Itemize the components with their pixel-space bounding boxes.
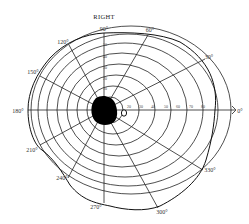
angle-label-240: 240° — [56, 175, 68, 181]
angle-label-30: 30° — [205, 54, 214, 60]
angle-label-0: 0° — [237, 108, 243, 114]
angle-label-150: 150° — [27, 69, 39, 75]
angle-label-330: 330° — [204, 167, 216, 173]
tick-h50: 50 — [164, 104, 168, 109]
tick-h60: 60 — [176, 104, 180, 109]
angle-label-300: 300° — [156, 209, 168, 215]
angle-label-210: 210° — [26, 147, 38, 153]
tick-h20: 20 — [127, 104, 131, 109]
fixation-marker — [121, 110, 126, 116]
tick-h80: 80 — [201, 104, 205, 109]
tick-h70: 70 — [189, 104, 193, 109]
angle-label-120: 120° — [57, 39, 69, 45]
tick-v10: 10 — [103, 86, 107, 91]
blind-spot — [91, 96, 117, 125]
angle-label-90: 90° — [100, 26, 109, 32]
angle-label-60: 60° — [146, 27, 155, 33]
tick-v20: 20 — [103, 76, 107, 81]
tick-v30: 30 — [103, 65, 107, 70]
angle-label-270: 270° — [90, 204, 102, 210]
angle-labels: 90° 60° 30° 0° 120° 150° 180° 210° 240° … — [12, 26, 243, 215]
tick-h30: 30 — [139, 104, 143, 109]
tick-h40: 40 — [151, 104, 155, 109]
chart-title: RIGHT — [93, 13, 114, 20]
tick-v50: 50 — [103, 42, 107, 47]
title: RIGHT — [93, 13, 114, 20]
angle-label-180: 180° — [12, 108, 24, 114]
visual-field-chart: RIGHT 90° 60° 30° 0° 120° 1 — [0, 0, 249, 224]
tick-v40: 40 — [103, 54, 107, 59]
